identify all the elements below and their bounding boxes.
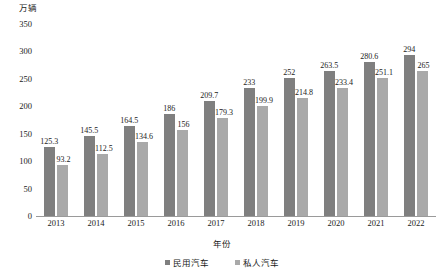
bar-rect[interactable] <box>84 136 95 216</box>
bar-2014-series1[interactable]: 112.5 <box>97 154 108 216</box>
bar-rect[interactable] <box>297 98 308 216</box>
legend-label: 私人汽车 <box>243 256 279 268</box>
bar-2016-series0[interactable]: 186 <box>164 114 175 216</box>
bar-2020-series1[interactable]: 233.4 <box>337 88 348 216</box>
bar-2017-series1[interactable]: 179.3 <box>217 118 228 216</box>
x-axis-tick-label: 2015 <box>128 219 145 228</box>
bar-rect[interactable] <box>377 78 388 216</box>
bar-rect[interactable] <box>257 106 268 216</box>
x-axis-tick-label: 2018 <box>248 219 265 228</box>
bar-rect[interactable] <box>137 142 148 216</box>
bar-rect[interactable] <box>364 62 375 216</box>
bar-2017-series0[interactable]: 209.7 <box>204 101 215 216</box>
legend-swatch-icon <box>165 260 170 265</box>
bar-rect[interactable] <box>217 118 228 216</box>
y-axis-tick-label: 100 <box>19 157 32 166</box>
bar-value-label: 125.3 <box>40 138 58 146</box>
bar-value-label: 294 <box>403 46 415 54</box>
bar-group: 263.5233.4 <box>316 71 356 216</box>
bar-2014-series0[interactable]: 145.5 <box>84 136 95 216</box>
bar-rect[interactable] <box>284 78 295 216</box>
bar-2019-series1[interactable]: 214.8 <box>297 98 308 216</box>
bar-value-label: 233.4 <box>335 79 353 87</box>
bar-rect[interactable] <box>57 165 68 216</box>
x-axis-tick-label: 2020 <box>328 219 345 228</box>
bar-value-label: 214.8 <box>295 89 313 97</box>
bar-2013-series1[interactable]: 93.2 <box>57 165 68 216</box>
bar-2015-series1[interactable]: 134.6 <box>137 142 148 216</box>
y-axis-tick-label: 200 <box>19 102 32 111</box>
bar-rect[interactable] <box>324 71 335 216</box>
x-axis-tick-label: 2013 <box>48 219 65 228</box>
bar-2020-series0[interactable]: 263.5 <box>324 71 335 216</box>
y-axis-tick-label: 300 <box>19 47 32 56</box>
y-axis-unit-label: 万辆 <box>19 4 37 13</box>
bar-group: 186156 <box>156 114 196 216</box>
bar-value-label: 252 <box>283 69 295 77</box>
bar-value-label: 280.6 <box>360 53 378 61</box>
legend-item-0[interactable]: 民用汽车 <box>165 256 209 268</box>
x-axis-tick-label: 2022 <box>408 219 425 228</box>
bar-2018-series1[interactable]: 199.9 <box>257 106 268 216</box>
bar-value-label: 265 <box>417 62 429 70</box>
bar-value-label: 93.2 <box>57 156 71 164</box>
x-axis-tick-label: 2021 <box>368 219 385 228</box>
plot-area: 050100150200250300350125.393.2145.5112.5… <box>36 24 436 216</box>
bar-group: 125.393.2 <box>36 147 76 216</box>
x-axis-title: 年份 <box>0 237 444 249</box>
legend-swatch-icon <box>235 260 240 265</box>
bar-value-label: 186 <box>163 105 175 113</box>
bar-value-label: 156 <box>177 121 189 129</box>
y-axis-tick-label: 250 <box>19 75 32 84</box>
bar-rect[interactable] <box>417 71 428 216</box>
legend-item-1[interactable]: 私人汽车 <box>235 256 279 268</box>
bar-2022-series1[interactable]: 265 <box>417 71 428 216</box>
chart-legend: 民用汽车私人汽车 <box>0 256 444 268</box>
bar-rect[interactable] <box>337 88 348 216</box>
bar-value-label: 251.1 <box>375 69 393 77</box>
y-axis-tick-label: 150 <box>19 129 32 138</box>
bar-group: 252214.8 <box>276 78 316 216</box>
bar-rect[interactable] <box>97 154 108 216</box>
bar-group: 145.5112.5 <box>76 136 116 216</box>
bar-rect[interactable] <box>404 55 415 216</box>
y-axis-tick-label: 350 <box>19 20 32 29</box>
bar-rect[interactable] <box>204 101 215 216</box>
bar-value-label: 263.5 <box>320 62 338 70</box>
bar-2015-series0[interactable]: 164.5 <box>124 126 135 216</box>
x-axis-tick-label: 2016 <box>168 219 185 228</box>
bar-value-label: 209.7 <box>200 92 218 100</box>
y-axis-tick-label: 0 <box>28 212 32 221</box>
bar-value-label: 134.6 <box>135 133 153 141</box>
bar-group: 233199.9 <box>236 88 276 216</box>
bar-group: 294265 <box>396 55 436 216</box>
bar-value-label: 199.9 <box>255 97 273 105</box>
x-axis-tick-label: 2019 <box>288 219 305 228</box>
bar-2021-series1[interactable]: 251.1 <box>377 78 388 216</box>
x-axis-line <box>36 216 436 217</box>
bar-value-label: 233 <box>243 79 255 87</box>
bar-chart: 万辆 050100150200250300350125.393.2145.511… <box>0 0 444 277</box>
bar-2021-series0[interactable]: 280.6 <box>364 62 375 216</box>
bar-rect[interactable] <box>177 130 188 216</box>
bar-rect[interactable] <box>124 126 135 216</box>
x-axis-tick-label: 2014 <box>88 219 105 228</box>
bar-2013-series0[interactable]: 125.3 <box>44 147 55 216</box>
x-axis-tick-label: 2017 <box>208 219 225 228</box>
bar-group: 209.7179.3 <box>196 101 236 216</box>
bar-group: 164.5134.6 <box>116 126 156 216</box>
bar-value-label: 179.3 <box>215 109 233 117</box>
bar-value-label: 164.5 <box>120 117 138 125</box>
bar-value-label: 112.5 <box>95 145 113 153</box>
bar-2019-series0[interactable]: 252 <box>284 78 295 216</box>
bar-rect[interactable] <box>244 88 255 216</box>
bar-2016-series1[interactable]: 156 <box>177 130 188 216</box>
bar-2018-series0[interactable]: 233 <box>244 88 255 216</box>
bar-group: 280.6251.1 <box>356 62 396 216</box>
bar-rect[interactable] <box>44 147 55 216</box>
bar-rect[interactable] <box>164 114 175 216</box>
legend-label: 民用汽车 <box>173 256 209 268</box>
bar-value-label: 145.5 <box>80 127 98 135</box>
bar-2022-series0[interactable]: 294 <box>404 55 415 216</box>
y-axis-tick-label: 50 <box>24 184 33 193</box>
